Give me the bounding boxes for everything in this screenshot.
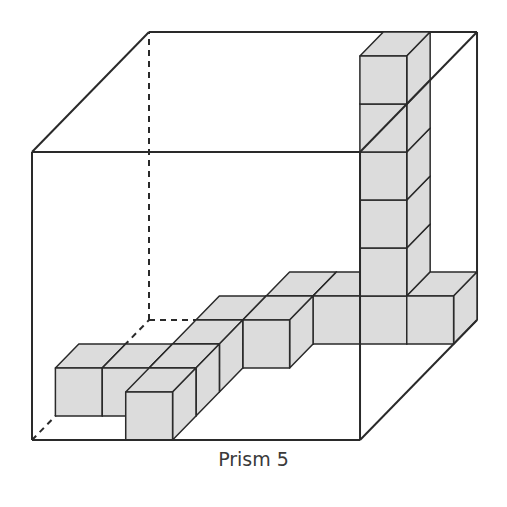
- cube-front-face: [360, 248, 407, 296]
- box-edge: [32, 32, 149, 152]
- cube-front-face: [407, 296, 454, 344]
- cube-front-face: [126, 392, 173, 440]
- prism-diagram: [0, 0, 507, 507]
- cube-front-face: [55, 368, 102, 416]
- cube-front-face: [360, 152, 407, 200]
- cube-front-face: [360, 200, 407, 248]
- cube-front-face: [360, 296, 407, 344]
- figure-caption: Prism 5: [0, 448, 507, 470]
- prism-figure: Prism 5: [0, 0, 507, 507]
- cube-front-face: [243, 320, 290, 368]
- cube-front-face: [360, 56, 407, 104]
- cube-front-face: [313, 296, 360, 344]
